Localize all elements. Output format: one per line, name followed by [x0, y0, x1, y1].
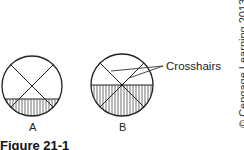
copyright-notice: © Cengage Learning 2013 [237, 0, 244, 128]
figure-caption: Figure 21-1 [0, 138, 69, 150]
panel-label-b: B [119, 121, 126, 133]
crosshairs-callout: Crosshairs [166, 60, 221, 72]
callout-leader-lines [111, 66, 163, 78]
panel-b-circle [88, 54, 158, 120]
panel-a-circle [0, 56, 70, 119]
panel-label-a: A [29, 121, 36, 133]
